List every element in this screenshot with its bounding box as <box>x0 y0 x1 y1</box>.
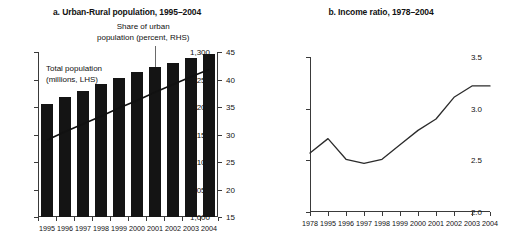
panel-a-x-label: 1995 <box>39 224 55 233</box>
panel-a-x-tick <box>146 217 147 221</box>
panel-b-x-tick <box>454 212 455 216</box>
panel-a-trend-svg <box>38 52 218 217</box>
panel-a-x-tick <box>110 217 111 221</box>
panel-a-x-label: 2001 <box>147 224 163 233</box>
panel-a-x-label: 2003 <box>183 224 199 233</box>
panel-a-x-label: 1996 <box>57 224 73 233</box>
panel-a-x-label: 2004 <box>201 224 217 233</box>
panel-a-right-tick-label: 35 <box>226 103 235 112</box>
panel-a-urban-rural-population: a. Urban-Rural population, 1995–2004 Tot… <box>0 0 254 245</box>
panel-b-x-label: 2003 <box>464 219 480 228</box>
annotation-share-urban-line2: population (percent, RHS) <box>97 33 190 44</box>
panel-a-right-tick <box>218 162 222 163</box>
panel-a-x-tick <box>182 217 183 221</box>
panel-a-x-label: 2002 <box>165 224 181 233</box>
panel-a-right-tick-label: 30 <box>226 130 235 139</box>
panel-b-x-label: 1995 <box>320 219 336 228</box>
panel-a-right-tick-label: 20 <box>226 185 235 194</box>
panel-b-title: b. Income ratio, 1978–2004 <box>254 7 508 17</box>
panel-b-x-tick <box>490 212 491 216</box>
panel-b-x-label: 2002 <box>446 219 462 228</box>
panel-b-x-tick <box>346 212 347 216</box>
panel-b-x-label: 1978 <box>302 219 318 228</box>
panel-b-x-label: 2000 <box>410 219 426 228</box>
panel-a-right-tick-label: 15 <box>226 213 235 222</box>
panel-a-right-tick <box>218 80 222 81</box>
panel-b-plot-area: 2.02.53.03.5 <box>310 57 490 212</box>
panel-b-x-label: 1997 <box>356 219 372 228</box>
panel-a-right-tick <box>218 107 222 108</box>
panel-a-x-label: 1998 <box>93 224 109 233</box>
panel-b-x-label: 1998 <box>374 219 390 228</box>
panel-b-line-svg <box>310 57 490 212</box>
panel-a-x-tick <box>92 217 93 221</box>
panel-b-x-tick <box>364 212 365 216</box>
figure-container: a. Urban-Rural population, 1995–2004 Tot… <box>0 0 508 245</box>
panel-a-right-tick-label: 25 <box>226 158 235 167</box>
panel-b-x-label: 1999 <box>392 219 408 228</box>
panel-b-x-tick <box>382 212 383 216</box>
panel-a-plot-area: 1,0001,0501,1001,1501,2001,2501,300 1520… <box>38 52 218 217</box>
panel-a-right-tick <box>218 135 222 136</box>
panel-a-x-tick <box>218 217 219 221</box>
panel-a-x-tick <box>74 217 75 221</box>
share-urban-trend-line <box>47 70 209 140</box>
panel-a-x-tick <box>164 217 165 221</box>
panel-b-x-tick <box>472 212 473 216</box>
panel-b-x-tick <box>418 212 419 216</box>
panel-b-x-label: 1996 <box>338 219 354 228</box>
panel-a-x-tick <box>200 217 201 221</box>
panel-b-x-tick <box>328 212 329 216</box>
panel-a-right-tick-label: 40 <box>226 75 235 84</box>
panel-b-x-label: 2001 <box>428 219 444 228</box>
panel-a-title: a. Urban-Rural population, 1995–2004 <box>0 7 254 17</box>
income-ratio-line <box>310 86 490 163</box>
panel-a-right-tick-label: 45 <box>226 48 235 57</box>
panel-a-x-tick <box>38 217 39 221</box>
panel-a-x-tick <box>128 217 129 221</box>
panel-a-right-tick <box>218 190 222 191</box>
panel-a-right-tick <box>218 52 222 53</box>
panel-b-x-tick <box>436 212 437 216</box>
panel-a-x-label: 1999 <box>111 224 127 233</box>
panel-a-x-label: 1997 <box>75 224 91 233</box>
annotation-share-urban: Share of urban population (percent, RHS) <box>97 22 190 43</box>
panel-a-x-tick <box>56 217 57 221</box>
panel-b-x-tick <box>310 212 311 216</box>
panel-b-x-tick <box>400 212 401 216</box>
panel-b-x-label: 2004 <box>482 219 498 228</box>
annotation-share-urban-line1: Share of urban <box>97 22 190 33</box>
panel-a-x-label: 2000 <box>129 224 145 233</box>
